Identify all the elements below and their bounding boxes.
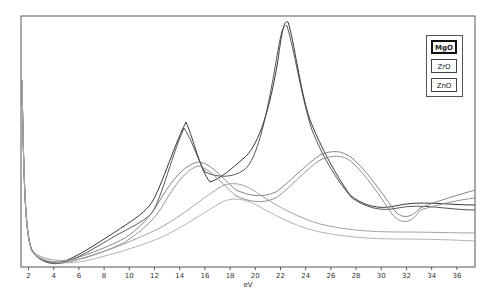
x-tick-label: 28 (352, 272, 361, 280)
x-tick-label: 10 (125, 272, 134, 280)
legend-item-zro[interactable]: ZrO (431, 59, 457, 73)
legend-item-zno[interactable]: ZnO (431, 78, 457, 92)
trace-zro-2 (22, 80, 475, 263)
x-tick-label: 36 (452, 272, 461, 280)
x-tick-label: 34 (427, 272, 436, 280)
trace-zno (22, 80, 475, 260)
x-tick-label: 8 (102, 272, 106, 280)
x-tick-label: 14 (175, 272, 184, 280)
x-tick-label: 22 (276, 272, 285, 280)
x-axis-ticks: 24681012141618202224262830323436 (26, 267, 462, 280)
x-tick-label: 20 (251, 272, 260, 280)
x-tick-label: 12 (150, 272, 159, 280)
trace-mgo-2 (22, 26, 475, 264)
plot-frame (21, 16, 475, 267)
x-axis-label: eV (243, 281, 252, 289)
trace-zro (22, 80, 475, 262)
x-tick-label: 24 (301, 272, 310, 280)
x-tick-label: 18 (226, 272, 235, 280)
x-tick-label: 32 (402, 272, 411, 280)
x-tick-label: 4 (51, 272, 56, 280)
x-tick-label: 16 (200, 272, 209, 280)
x-tick-label: 30 (377, 272, 386, 280)
traces (22, 22, 475, 264)
trace-mgo (22, 22, 475, 263)
trace-zno-2 (22, 80, 475, 263)
x-tick-label: 26 (326, 272, 335, 280)
x-tick-label: 6 (77, 272, 82, 280)
legend: MgO ZrO ZnO (426, 35, 463, 97)
x-tick-label: 2 (26, 272, 30, 280)
legend-item-mgo[interactable]: MgO (431, 40, 457, 54)
spectrum-chart: 24681012141618202224262830323436 eV (0, 0, 492, 294)
